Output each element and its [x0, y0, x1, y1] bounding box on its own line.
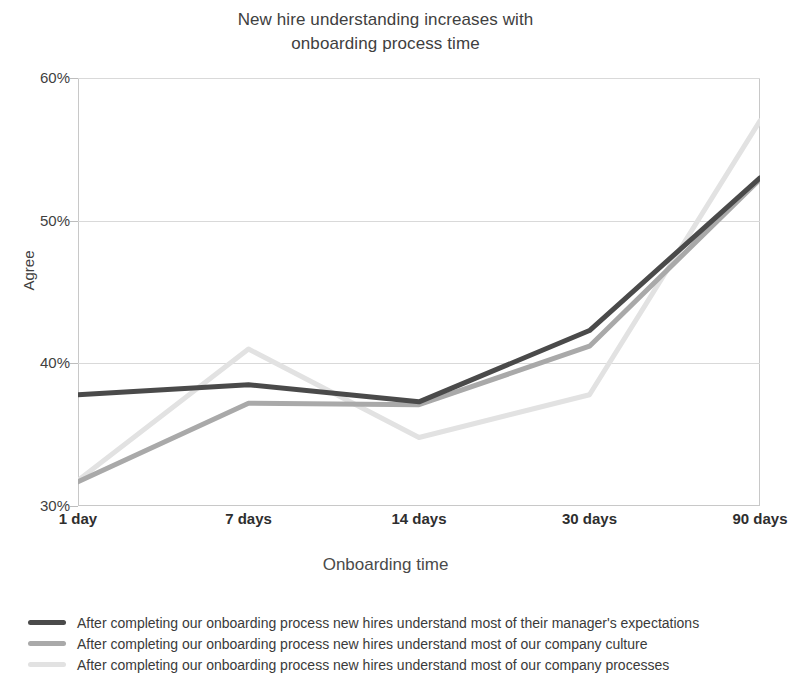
y-axis-title: Agree [20, 231, 37, 311]
x-axis-title: Onboarding time [0, 555, 771, 575]
legend-item-label: After completing our onboarding process … [77, 636, 647, 652]
y-axis-tick-label: 40% [8, 354, 70, 371]
y-axis-tick-mark [70, 506, 78, 507]
chart-legend: After completing our onboarding process … [28, 612, 768, 675]
legend-item[interactable]: After completing our onboarding process … [28, 633, 768, 654]
legend-item[interactable]: After completing our onboarding process … [28, 612, 768, 633]
y-axis-tick-label: 50% [8, 212, 70, 229]
legend-color-swatch [28, 620, 66, 625]
x-axis-tick-label: 14 days [391, 510, 446, 527]
legend-item[interactable]: After completing our onboarding process … [28, 654, 768, 675]
x-axis-tick-label: 7 days [225, 510, 272, 527]
legend-color-swatch [28, 641, 66, 646]
chart-title: New hire understanding increases with on… [0, 8, 771, 56]
legend-item-label: After completing our onboarding process … [77, 615, 699, 631]
x-axis-tick-label: 30 days [562, 510, 617, 527]
x-axis-tick-label: 90 days [732, 510, 787, 527]
y-axis-tick-mark [70, 78, 78, 79]
y-axis-tick-mark [70, 363, 78, 364]
plot-area [78, 78, 760, 506]
legend-item-label: After completing our onboarding process … [77, 657, 669, 673]
series-line [78, 121, 760, 481]
y-axis-tick-label: 60% [8, 69, 70, 86]
y-axis-tick-mark [70, 221, 78, 222]
x-axis-tick-group: 1 day7 days14 days30 days90 days [0, 510, 771, 536]
chart-lines [78, 78, 760, 506]
legend-color-swatch [28, 662, 66, 667]
x-axis-tick-label: 1 day [59, 510, 97, 527]
